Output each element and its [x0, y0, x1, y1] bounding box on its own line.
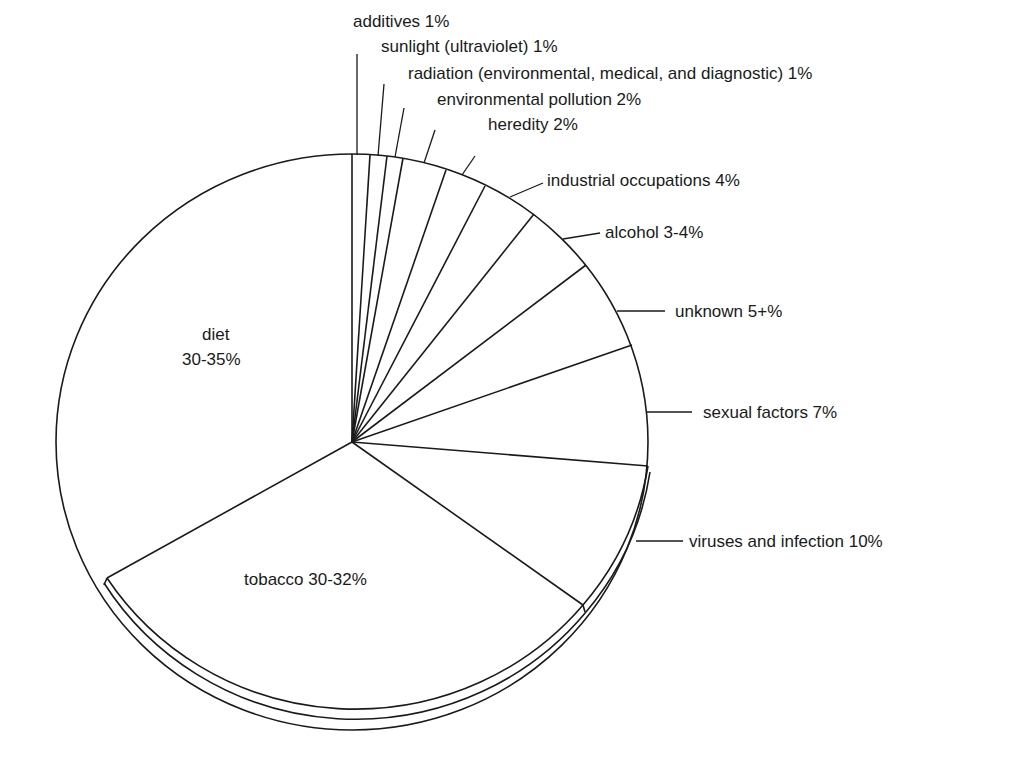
label-alcohol: alcohol 3-4%: [605, 223, 703, 242]
slice-boundaries: [107, 154, 648, 605]
label-additives: additives 1%: [353, 12, 449, 31]
label-environmental-pollution: environmental pollution 2%: [437, 90, 641, 109]
label-diet-value: 30-35%: [182, 350, 241, 369]
label-unknown: unknown 5+%: [675, 302, 782, 321]
label-diet-name: diet: [202, 325, 230, 344]
pie-chart: additives 1% sunlight (ultraviolet) 1% r…: [0, 0, 1026, 773]
label-sunlight: sunlight (ultraviolet) 1%: [381, 37, 558, 56]
label-radiation: radiation (environmental, medical, and d…: [408, 64, 812, 83]
label-viruses-infection: viruses and infection 10%: [689, 532, 883, 551]
label-sexual-factors: sexual factors 7%: [703, 403, 837, 422]
label-heredity: heredity 2%: [488, 115, 578, 134]
label-industrial-occupations: industrial occupations 4%: [547, 171, 740, 190]
label-tobacco: tobacco 30-32%: [244, 570, 367, 589]
